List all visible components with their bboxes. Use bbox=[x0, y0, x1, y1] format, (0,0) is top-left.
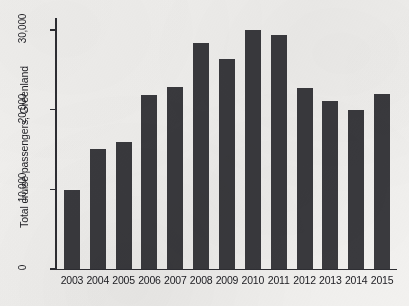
x-tick-label: 2013 bbox=[317, 274, 343, 286]
x-tick-label: 2003 bbox=[59, 274, 85, 286]
bar-chart: Total cruise passengers, Greenland 010,0… bbox=[0, 0, 409, 306]
x-tick-label: 2014 bbox=[343, 274, 369, 286]
bar bbox=[219, 59, 235, 269]
bar bbox=[271, 35, 287, 269]
x-tick-label: 2006 bbox=[137, 274, 163, 286]
y-tick-label: 0 bbox=[17, 246, 28, 290]
x-tick-label: 2011 bbox=[266, 274, 292, 286]
x-tick-label: 2009 bbox=[214, 274, 240, 286]
bar bbox=[297, 88, 313, 269]
bar bbox=[322, 101, 338, 269]
x-tick-label: 2008 bbox=[188, 274, 214, 286]
x-tick-label: 2005 bbox=[111, 274, 137, 286]
y-tick-label: 20,000 bbox=[17, 86, 28, 130]
plot-area bbox=[55, 18, 397, 270]
x-axis-tick-labels: 2003200420052006200720082009201020112012… bbox=[55, 274, 397, 290]
bar bbox=[116, 142, 132, 269]
bar bbox=[64, 190, 80, 269]
bar bbox=[193, 43, 209, 269]
x-tick-label: 2012 bbox=[292, 274, 318, 286]
bars-group bbox=[55, 18, 397, 269]
x-tick-label: 2010 bbox=[240, 274, 266, 286]
y-tick-label: 10,000 bbox=[17, 166, 28, 210]
x-tick-label: 2015 bbox=[369, 274, 395, 286]
x-tick-label: 2007 bbox=[162, 274, 188, 286]
bar bbox=[245, 30, 261, 269]
bar bbox=[348, 110, 364, 269]
bar bbox=[167, 87, 183, 269]
x-tick-label: 2004 bbox=[85, 274, 111, 286]
bar bbox=[141, 95, 157, 269]
bar bbox=[374, 94, 390, 269]
y-tick-label: 30,000 bbox=[17, 6, 28, 50]
y-axis-title: Total cruise passengers, Greenland bbox=[17, 14, 31, 280]
bar bbox=[90, 149, 106, 269]
